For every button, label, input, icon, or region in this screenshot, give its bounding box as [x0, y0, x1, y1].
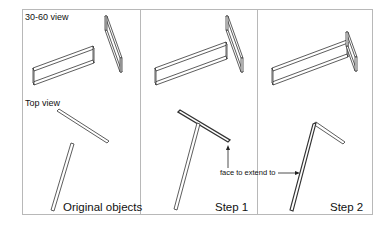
top-board-a [313, 122, 345, 144]
top-board-highlighted [178, 110, 230, 142]
caption-original: Original objects [63, 201, 143, 213]
caption-step1: Step 1 [215, 201, 248, 213]
top-view-label: Top view [25, 98, 61, 108]
panel-step2: Step 2 [272, 32, 363, 213]
panel-original: 30-60 view Top view Original objects [25, 12, 143, 213]
figure-frame [23, 10, 373, 215]
iso-view-label: 30-60 view [25, 12, 69, 22]
panel-step1: Step 1 [155, 16, 248, 213]
iso-board-short [346, 32, 357, 71]
top-board-a [57, 109, 109, 143]
top-board-b [174, 123, 200, 210]
arrow-up-head-icon [226, 145, 230, 150]
iso-board-long [155, 42, 227, 85]
iso-board-long [272, 40, 348, 85]
iso-board-long [33, 46, 94, 85]
extend-diagram: 30-60 view Top view Original objects [0, 0, 390, 227]
iso-board-short [105, 16, 122, 72]
caption-step2: Step 2 [330, 201, 363, 213]
iso-board-short [226, 16, 243, 72]
top-board-extended [290, 123, 316, 211]
annotation-face-to-extend: face to extend to [220, 168, 275, 177]
